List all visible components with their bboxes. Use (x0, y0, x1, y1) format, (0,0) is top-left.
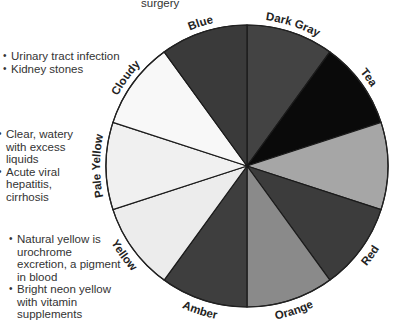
urine-color-wheel: Dark GrayTeaRedOrangeAmberYellowPale Yel… (0, 0, 396, 324)
segment-label: Pale Yellow (90, 133, 105, 199)
